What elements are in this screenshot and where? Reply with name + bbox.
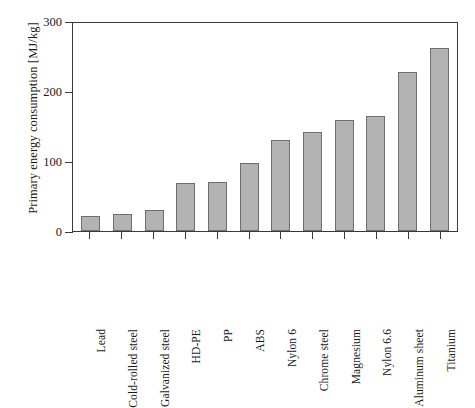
bar xyxy=(145,210,164,231)
x-tick-mark xyxy=(185,232,186,239)
x-tick-label: Aluminum sheet xyxy=(414,329,426,407)
x-label-slot: Nylon 6 xyxy=(265,239,297,331)
x-tick-slot xyxy=(201,232,233,239)
y-tick-label: 300 xyxy=(28,16,62,29)
bar-slot xyxy=(170,23,202,231)
x-label-slot: Aluminum sheet xyxy=(392,239,424,331)
bar xyxy=(430,48,449,231)
x-axis-ticks xyxy=(72,232,458,239)
x-label-slot: Lead xyxy=(74,239,106,331)
plot-area xyxy=(72,22,458,232)
bar-slot xyxy=(202,23,234,231)
bar-slot xyxy=(138,23,170,231)
x-tick-label: Magnesium xyxy=(351,329,363,384)
x-tick-slot xyxy=(360,232,392,239)
bar-slot xyxy=(265,23,297,231)
x-tick-label: ABS xyxy=(255,329,267,352)
x-tick-mark xyxy=(344,232,345,239)
x-tick-label: Cold-rolled steel xyxy=(128,329,140,408)
y-tick-label: 0 xyxy=(28,226,62,239)
bar xyxy=(113,214,132,231)
bar-slot xyxy=(392,23,424,231)
bar xyxy=(271,140,290,231)
x-label-slot: ABS xyxy=(233,239,265,331)
x-tick-mark xyxy=(312,232,313,239)
x-tick-slot xyxy=(424,232,456,239)
x-axis-labels: LeadCold-rolled steelGalvanized steelHD-… xyxy=(72,239,458,331)
x-tick-mark xyxy=(376,232,377,239)
x-tick-label: Chrome steel xyxy=(319,329,331,391)
x-label-slot: Cold-rolled steel xyxy=(106,239,138,331)
bar-slot xyxy=(328,23,360,231)
bar xyxy=(81,216,100,231)
bar-slot xyxy=(75,23,107,231)
x-tick-slot xyxy=(392,232,424,239)
x-tick-mark xyxy=(249,232,250,239)
x-tick-label: Galvanized steel xyxy=(160,329,172,407)
x-tick-slot xyxy=(74,232,106,239)
x-label-slot: Nylon 6.6 xyxy=(360,239,392,331)
bar-slot xyxy=(297,23,329,231)
x-tick-slot xyxy=(138,232,170,239)
bar-slot xyxy=(423,23,455,231)
y-tick-label: 200 xyxy=(28,86,62,99)
x-label-slot: Titanium xyxy=(424,239,456,331)
x-tick-slot xyxy=(297,232,329,239)
x-tick-slot xyxy=(106,232,138,239)
bar-slot xyxy=(107,23,139,231)
x-label-slot: Galvanized steel xyxy=(138,239,170,331)
x-tick-mark xyxy=(89,232,90,239)
bar xyxy=(366,116,385,231)
x-tick-mark xyxy=(153,232,154,239)
x-label-slot: Chrome steel xyxy=(297,239,329,331)
bar xyxy=(335,120,354,231)
bar xyxy=(303,132,322,231)
x-tick-label: Nylon 6 xyxy=(287,329,299,367)
bar-slot xyxy=(360,23,392,231)
x-tick-mark xyxy=(121,232,122,239)
x-tick-label: Nylon 6.6 xyxy=(382,329,394,376)
x-tick-mark xyxy=(280,232,281,239)
bar-slot xyxy=(233,23,265,231)
x-tick-mark xyxy=(440,232,441,239)
x-tick-slot xyxy=(233,232,265,239)
bar xyxy=(398,72,417,231)
x-tick-slot xyxy=(265,232,297,239)
x-label-slot: PP xyxy=(201,239,233,331)
x-tick-mark xyxy=(217,232,218,239)
x-tick-mark xyxy=(408,232,409,239)
x-label-slot: HD-PE xyxy=(169,239,201,331)
x-tick-label: Lead xyxy=(96,329,108,352)
x-tick-slot xyxy=(329,232,361,239)
x-tick-label: Titanium xyxy=(446,329,458,372)
bar xyxy=(208,182,227,231)
x-tick-label: HD-PE xyxy=(191,329,203,363)
x-tick-slot xyxy=(169,232,201,239)
bar-series xyxy=(73,23,457,231)
y-tick-label: 100 xyxy=(28,156,62,169)
y-axis-title: Primary energy consumption [MJ/kg] xyxy=(22,2,44,234)
bar xyxy=(176,183,195,231)
x-label-slot: Magnesium xyxy=(329,239,361,331)
bar xyxy=(240,163,259,231)
